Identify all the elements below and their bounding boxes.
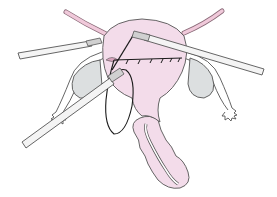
surgical-illustration: Laparoscopic suturing of uterine incisio… — [0, 0, 277, 197]
round-ligament-left — [66, 12, 106, 34]
round-ligament-right — [184, 11, 222, 33]
vagina — [133, 116, 189, 188]
needle-holder-upper-left — [18, 38, 102, 59]
